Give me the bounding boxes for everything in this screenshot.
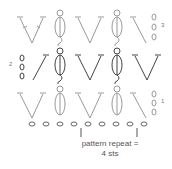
repeat-label-line2: 4 sts bbox=[70, 149, 150, 159]
repeat-markers bbox=[81, 128, 137, 137]
row-number-2: 2 bbox=[9, 61, 12, 67]
repeat-label-line1: pattern repeat = bbox=[70, 139, 150, 149]
row-1 bbox=[17, 86, 156, 118]
row-3 bbox=[17, 10, 156, 46]
row-number-3: 3 bbox=[161, 22, 164, 28]
repeat-label: pattern repeat = 4 sts bbox=[70, 139, 150, 159]
foundation-chain bbox=[29, 122, 147, 126]
row-number-1: 1 bbox=[161, 98, 164, 104]
row-2 bbox=[20, 48, 161, 84]
